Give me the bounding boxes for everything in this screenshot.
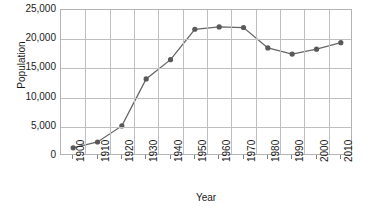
x-axis-tick-label: 2010	[344, 140, 354, 162]
x-axis-tick-mark	[72, 155, 73, 159]
x-axis-tick-label: 1900	[76, 140, 86, 162]
x-axis-tick-mark	[316, 155, 317, 159]
x-axis-tick-mark	[243, 155, 244, 159]
x-axis-tick-label: 1970	[247, 140, 257, 162]
x-axis-tick-label: 1920	[125, 140, 135, 162]
x-axis-tick-mark	[291, 155, 292, 159]
x-axis-tick-mark	[121, 155, 122, 159]
x-axis-tick-labels: 1900191019201930194019501960197019801990…	[0, 0, 365, 213]
x-axis-tick-mark	[97, 155, 98, 159]
x-axis-tick-mark	[170, 155, 171, 159]
x-axis-tick-mark	[340, 155, 341, 159]
x-axis-tick-label: 1980	[271, 140, 281, 162]
x-axis-tick-label: 1910	[101, 140, 111, 162]
x-axis-tick-mark	[267, 155, 268, 159]
x-axis-tick-label: 1940	[174, 140, 184, 162]
x-axis-tick-label: 1930	[149, 140, 159, 162]
x-axis-title: Year	[60, 193, 352, 203]
x-axis-tick-mark	[218, 155, 219, 159]
x-axis-tick-label: 2000	[320, 140, 330, 162]
x-axis-tick-mark	[145, 155, 146, 159]
x-axis-tick-label: 1960	[222, 140, 232, 162]
x-axis-tick-label: 1990	[295, 140, 305, 162]
x-axis-tick-mark	[194, 155, 195, 159]
x-axis-tick-label: 1950	[198, 140, 208, 162]
population-line-chart: Population 05,00010,00015,00020,00025,00…	[0, 0, 365, 213]
